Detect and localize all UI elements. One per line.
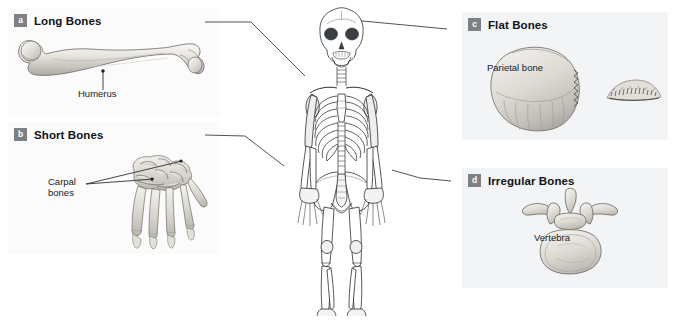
- badge-c: c: [468, 18, 481, 31]
- label-parietal-bone: Parietal bone: [487, 62, 543, 73]
- human-skeleton-illustration: [286, 4, 404, 316]
- carpal-callout-leader: [84, 158, 190, 194]
- heading-long-bones: a Long Bones: [14, 14, 101, 27]
- heading-short-bones: b Short Bones: [14, 128, 103, 141]
- label-humerus: Humerus: [78, 88, 117, 99]
- badge-d: d: [468, 174, 481, 187]
- leader-line-b: [205, 135, 284, 166]
- heading-flat-bones: c Flat Bones: [468, 18, 548, 31]
- vertebra-illustration: [512, 186, 628, 282]
- label-carpal-line2: bones: [48, 187, 76, 198]
- label-carpal-line1: Carpal: [48, 176, 76, 187]
- title-irregular-bones: Irregular Bones: [488, 175, 575, 187]
- parietal-bone-illustration: [482, 44, 598, 136]
- label-carpal-bones: Carpal bones: [48, 176, 76, 198]
- bone-classification-figure: a Long Bones b Short Bones c Flat Bones …: [0, 0, 674, 320]
- parietal-cross-section-illustration: [604, 78, 664, 104]
- title-long-bones: Long Bones: [34, 15, 101, 27]
- heading-irregular-bones: d Irregular Bones: [468, 174, 575, 187]
- title-short-bones: Short Bones: [34, 129, 103, 141]
- label-vertebra: Vertebra: [534, 232, 570, 243]
- badge-a: a: [14, 14, 27, 27]
- badge-b: b: [14, 128, 27, 141]
- title-flat-bones: Flat Bones: [488, 19, 548, 31]
